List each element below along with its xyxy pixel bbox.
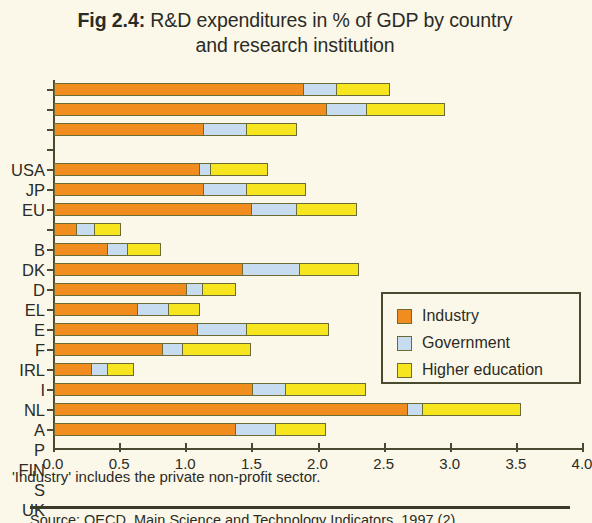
- bar-segment-ind: [54, 403, 408, 416]
- chart-title-line1: R&D expenditures in % of GDP by country: [145, 9, 512, 31]
- bar-segment-he: [275, 423, 326, 436]
- y-axis-labels: USAJPEUBDKDELEFIRLINLAPFINSUK: [0, 80, 49, 450]
- bar-segment-gov: [326, 103, 367, 116]
- bar-segment-ind: [54, 303, 138, 316]
- legend-label-government: Government: [422, 334, 510, 352]
- bar-segment-he: [366, 103, 445, 116]
- bar-segment-ind: [54, 203, 252, 216]
- legend-swatch-industry: [397, 309, 412, 324]
- bar-segment-he: [422, 403, 521, 416]
- bar-segment-gov: [235, 423, 276, 436]
- y-axis-label-jp: JP: [26, 182, 45, 198]
- chart-title: Fig 2.4: R&D expenditures in % of GDP by…: [0, 8, 590, 58]
- y-axis-tick: [47, 149, 55, 151]
- bar-segment-ind: [54, 83, 304, 96]
- bar-segment-ind: [54, 263, 243, 276]
- bar-segment-he: [94, 223, 121, 236]
- bar-segment-gov: [91, 363, 108, 376]
- bar-segment-gov: [186, 283, 203, 296]
- chart-title-line2: and research institution: [195, 34, 394, 56]
- bar-segment-gov: [251, 203, 297, 216]
- bar-segment-he: [246, 183, 307, 196]
- y-axis-label-d: D: [33, 282, 45, 298]
- horizontal-rule: [30, 506, 570, 509]
- x-axis-tick: [582, 443, 584, 452]
- y-axis-label-usa: USA: [11, 162, 45, 178]
- bar-segment-gov: [76, 223, 94, 236]
- y-axis-label-f: F: [35, 342, 45, 358]
- legend-box: IndustryGovernmentHigher education: [381, 292, 581, 384]
- bar-segment-ind: [54, 343, 163, 356]
- bar-segment-he: [296, 203, 357, 216]
- bar-segment-ind: [54, 423, 236, 436]
- bar-segment-gov: [162, 343, 183, 356]
- y-axis-label-a: A: [34, 422, 45, 438]
- x-axis-tick: [251, 443, 253, 452]
- legend-item-higher_education: Higher education: [397, 361, 543, 379]
- x-axis-label: 3.5: [505, 455, 526, 472]
- bar-segment-gov: [242, 263, 300, 276]
- bar-segment-he: [285, 383, 365, 396]
- y-axis-label-i: I: [40, 382, 45, 398]
- y-axis-label-irl: IRL: [19, 362, 45, 378]
- bar-segment-gov: [203, 123, 246, 136]
- bar-segment-ind: [54, 183, 204, 196]
- bar-segment-gov: [107, 243, 128, 256]
- x-axis-tick: [119, 443, 121, 452]
- y-axis-label-eu: EU: [22, 202, 45, 218]
- bar-segment-he: [127, 243, 161, 256]
- x-axis-tick: [53, 443, 55, 452]
- legend-item-industry: Industry: [397, 307, 479, 325]
- bar-segment-he: [107, 363, 134, 376]
- bar-segment-ind: [54, 323, 198, 336]
- bar-segment-he: [182, 343, 250, 356]
- x-axis-label: 2.5: [373, 455, 394, 472]
- bar-segment-ind: [54, 363, 92, 376]
- legend-swatch-higher_education: [397, 363, 412, 378]
- footnote: 'Industry' includes the private non-prof…: [12, 468, 320, 485]
- bar-segment-he: [299, 263, 360, 276]
- bar-segment-ind: [54, 383, 253, 396]
- source-line: Source: OECD, Main Science and Technolog…: [30, 512, 455, 523]
- y-axis-label-e: E: [34, 322, 45, 338]
- y-axis-label-dk: DK: [22, 262, 45, 278]
- y-axis-label-b: B: [34, 242, 45, 258]
- bar-segment-ind: [54, 243, 108, 256]
- plot-area: 0.00.51.01.52.02.53.03.54.0: [53, 80, 582, 450]
- bar-segment-ind: [54, 163, 200, 176]
- bar-segment-ind: [54, 283, 187, 296]
- bar-segment-ind: [54, 223, 77, 236]
- x-axis-tick: [450, 443, 452, 452]
- bar-segment-gov: [303, 83, 337, 96]
- legend-label-higher_education: Higher education: [422, 361, 543, 379]
- bar-segment-he: [210, 163, 268, 176]
- y-axis-label-nl: NL: [24, 402, 45, 418]
- x-axis-tick: [318, 443, 320, 452]
- legend-swatch-government: [397, 336, 412, 351]
- bar-segment-he: [202, 283, 236, 296]
- x-axis-tick: [384, 443, 386, 452]
- x-axis-tick: [185, 443, 187, 452]
- bar-segment-he: [246, 123, 297, 136]
- legend-item-government: Government: [397, 334, 510, 352]
- bar-segment-ind: [54, 103, 327, 116]
- x-axis-tick: [516, 443, 518, 452]
- figure-number: Fig 2.4:: [78, 9, 145, 31]
- bar-segment-gov: [137, 303, 168, 316]
- bar-segment-gov: [203, 183, 246, 196]
- legend-label-industry: Industry: [422, 307, 479, 325]
- bar-segment-gov: [407, 403, 423, 416]
- bar-segment-gov: [197, 323, 247, 336]
- bar-segment-he: [336, 83, 390, 96]
- y-axis-label-el: EL: [25, 302, 45, 318]
- bar-segment-gov: [252, 383, 286, 396]
- bar-segment-he: [168, 303, 201, 316]
- bar-segment-ind: [54, 123, 204, 136]
- x-axis-label: 3.0: [439, 455, 460, 472]
- x-axis-label: 4.0: [572, 455, 592, 472]
- bar-segment-he: [246, 323, 329, 336]
